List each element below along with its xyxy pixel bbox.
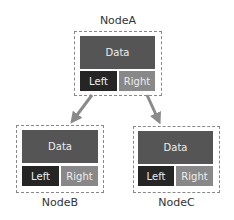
- node-c-right: Right: [176, 166, 213, 186]
- edge-a-to-b: [74, 95, 92, 119]
- node-c-data: Data: [138, 131, 213, 164]
- node-a-data: Data: [80, 36, 155, 69]
- node-b-left: Left: [22, 166, 59, 186]
- node-b-label: NodeB: [16, 196, 104, 209]
- node-b-right: Right: [61, 166, 98, 186]
- edge-a-to-c: [147, 95, 158, 119]
- node-c-label: NodeC: [133, 196, 220, 209]
- node-a-label: NodeA: [74, 14, 162, 27]
- node-c-left: Left: [138, 166, 174, 186]
- node-b-data: Data: [22, 130, 98, 163]
- node-a-left: Left: [80, 71, 117, 91]
- node-a-right: Right: [119, 71, 155, 91]
